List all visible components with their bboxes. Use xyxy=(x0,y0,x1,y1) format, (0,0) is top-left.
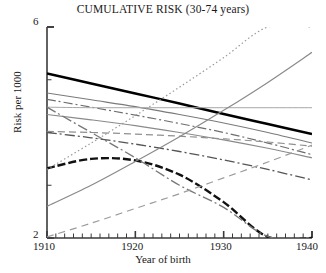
series-line-4 xyxy=(47,107,312,108)
series-line-1 xyxy=(47,73,312,134)
series-line-9 xyxy=(47,107,312,239)
series-line-8 xyxy=(47,158,312,240)
plot-area xyxy=(0,0,326,273)
series-line-2 xyxy=(47,93,312,143)
data-series-group xyxy=(47,25,312,240)
series-line-11 xyxy=(47,25,312,170)
series-line-7 xyxy=(47,133,312,180)
chart-figure: CUMULATIVE RISK (30-74 years) Risk per 1… xyxy=(0,0,326,273)
